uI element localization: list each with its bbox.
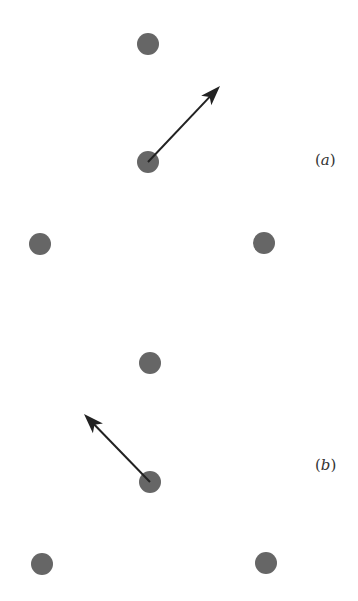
lattice-dot: [31, 553, 53, 575]
lattice-diagram: (a) (b): [0, 0, 358, 601]
panel-a: (a): [29, 33, 336, 255]
panel-label: (b): [315, 456, 336, 474]
lattice-dot: [29, 233, 51, 255]
arrow-shaft: [94, 424, 150, 482]
arrow-shaft: [148, 96, 210, 162]
lattice-dot: [255, 552, 277, 574]
lattice-dot: [139, 352, 161, 374]
panel-label: (a): [315, 151, 336, 169]
lattice-dot: [253, 232, 275, 254]
panel-b: (b): [31, 352, 336, 575]
lattice-dot: [137, 33, 159, 55]
